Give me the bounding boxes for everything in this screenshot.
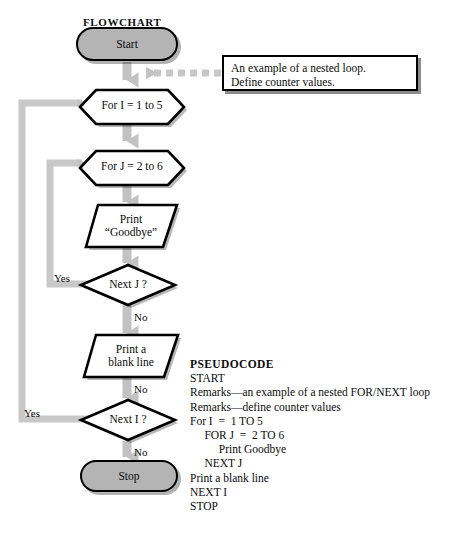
node-print-blank[interactable] [82, 332, 182, 380]
flowchart-figure: FLOWCHART Start An example of a nested l… [0, 0, 468, 533]
node-stop[interactable]: Stop [80, 460, 178, 492]
pseudocode-line: Remarks—define counter values [190, 400, 430, 414]
pseudocode-line: Print Goodbye [190, 442, 430, 456]
pseudocode-heading: PSEUDOCODE [190, 357, 430, 371]
edge-label-next-i-yes: Yes [24, 407, 40, 419]
node-next-j[interactable] [78, 262, 178, 308]
node-stop-label: Stop [118, 470, 139, 483]
node-for-j[interactable] [76, 147, 188, 187]
node-print-goodbye[interactable] [84, 202, 180, 250]
pseudocode-block: PSEUDOCODE STARTRemarks—an example of a … [190, 357, 430, 513]
node-next-i[interactable] [78, 397, 178, 443]
edge-label-next-j-yes: Yes [54, 272, 70, 284]
pseudocode-line: For I = 1 TO 5 [190, 414, 430, 428]
node-for-i[interactable] [76, 86, 188, 126]
pseudocode-lines: STARTRemarks—an example of a nested FOR/… [190, 371, 430, 513]
pseudocode-line: NEXT J [190, 456, 430, 470]
edge-label-next-i-no: No [134, 446, 147, 458]
pseudocode-line: START [190, 371, 430, 385]
pseudocode-line: NEXT I [190, 485, 430, 499]
edge-label-print-blank-no: No [134, 383, 147, 395]
pseudocode-line: Print a blank line [190, 471, 430, 485]
node-start-label: Start [116, 38, 138, 51]
pseudocode-line: STOP [190, 499, 430, 513]
node-start[interactable]: Start [76, 27, 178, 61]
pseudocode-line: Remarks—an example of a nested FOR/NEXT … [190, 385, 430, 399]
pseudocode-line: FOR J = 2 TO 6 [190, 428, 430, 442]
edge-label-next-j-no: No [134, 311, 147, 323]
annotation-note: An example of a nested loop. Define coun… [222, 55, 418, 91]
